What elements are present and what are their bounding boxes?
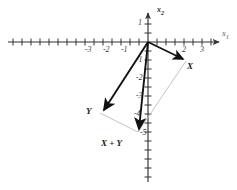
y-tick-label-1: 1 [138,19,142,27]
vector-sum-label: X + Y [101,139,122,148]
x-tick-label-3: 3 [200,46,204,54]
y-axis-label: x2 [157,6,164,16]
plot-canvas [0,0,237,190]
x-tick-label-neg1: -1 [121,46,127,54]
x-axis-label: x1 [222,30,229,40]
y-tick-label-neg5: -5 [140,129,146,137]
guide-line-y-to-sum [100,113,138,132]
y-tick-label-neg2: -2 [136,74,142,82]
x-axis-group [8,39,219,46]
x-tick-label-2: 2 [182,46,186,54]
x-tick-label-neg2: -2 [103,46,109,54]
y-tick-label-neg1: -1 [136,56,142,64]
vectors-group [104,42,183,129]
vector-addition-figure: x2 x1 -3 -2 -1 2 3 1 -1 -2 -3 -4 -5 X Y … [0,0,237,190]
y-tick-label-neg3: -3 [136,92,142,100]
y-tick-label-neg4: -4 [134,110,140,118]
y-axis-group [145,13,152,182]
vector-x-label: X [187,62,193,71]
vector-y-label: Y [86,107,92,116]
x-tick-label-neg3: -3 [85,46,91,54]
